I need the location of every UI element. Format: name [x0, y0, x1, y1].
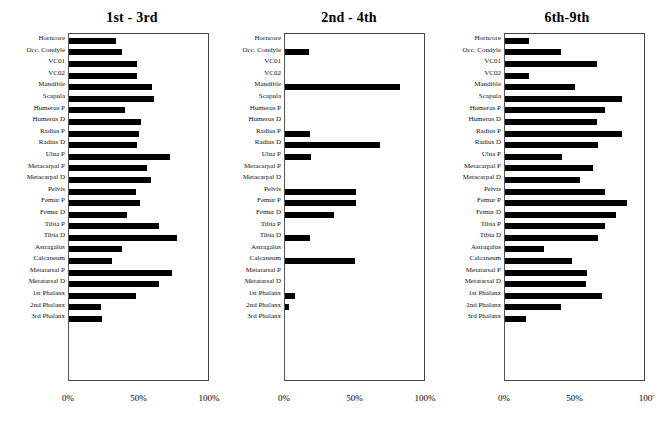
bar-row: [69, 221, 208, 233]
bar-row: [505, 93, 644, 105]
bar-row: [69, 139, 208, 151]
category-label: Metacarpal P: [0, 161, 65, 173]
category-label: Pelvis: [440, 184, 501, 196]
bar-row: [69, 255, 208, 267]
bar: [505, 131, 622, 137]
bar: [69, 246, 122, 252]
panel-2-axis: 0% 50% 100%: [228, 383, 425, 407]
panel-2-axis-spacer: [228, 383, 284, 407]
category-label: Mandible: [0, 79, 65, 91]
category-label: Humerus D: [0, 114, 65, 126]
bar-row: [285, 151, 424, 163]
bar-row: [505, 313, 644, 325]
bar: [505, 316, 526, 322]
category-label: 2nd Phalanx: [228, 300, 281, 312]
panel-2-plot-area: [284, 33, 425, 381]
bar: [505, 49, 561, 55]
category-label: Femur P: [228, 195, 281, 207]
category-label: Metatarsal D: [0, 276, 65, 288]
bar-row: [505, 197, 644, 209]
category-label: Ulna P: [228, 149, 281, 161]
category-label: Radius D: [0, 137, 65, 149]
bar-row: [505, 139, 644, 151]
bar-row: [69, 128, 208, 140]
category-label: 3rd Phalanx: [228, 311, 281, 323]
category-label: VC02: [440, 68, 501, 80]
bar: [505, 142, 598, 148]
bar-row: [505, 151, 644, 163]
bar-row: [69, 70, 208, 82]
category-label: Radius D: [228, 137, 281, 149]
bar: [69, 96, 154, 102]
bar: [505, 258, 572, 264]
category-label: Astragalus: [228, 242, 281, 254]
category-label: Occ. Condyle: [228, 45, 281, 57]
chart-panel-2: 2nd - 4th HorncoreOcc. CondyleVC01VC02Ma…: [228, 0, 440, 436]
category-label: Tibia P: [228, 219, 281, 231]
category-label: Femur P: [440, 195, 501, 207]
panel-3-axis-spacer: [440, 383, 504, 407]
panel-3-plot-area: [504, 33, 645, 381]
bar-row: [69, 151, 208, 163]
category-label: Metatarsal D: [228, 276, 281, 288]
bar: [69, 131, 139, 137]
bar-row: [505, 221, 644, 233]
panel-3-tick-100: 100': [639, 393, 654, 403]
category-label: Calcaneum: [0, 253, 65, 265]
category-label: Femur D: [228, 207, 281, 219]
bar-row: [69, 186, 208, 198]
bar: [69, 270, 172, 276]
bar-row: [69, 47, 208, 59]
bar: [505, 73, 529, 79]
bar: [285, 258, 355, 264]
bar: [505, 212, 616, 218]
bar: [69, 281, 159, 287]
category-label: Metatarsal P: [0, 265, 65, 277]
bar-row: [505, 209, 644, 221]
category-label: Mandible: [440, 79, 501, 91]
category-label: Metatarsal P: [440, 265, 501, 277]
bar-row: [505, 128, 644, 140]
bar: [69, 119, 141, 125]
category-label: Pelvis: [228, 184, 281, 196]
bar-row: [505, 116, 644, 128]
panel-2-title: 2nd - 4th: [228, 10, 440, 26]
category-label: Humerus D: [228, 114, 281, 126]
category-label: Scapula: [0, 91, 65, 103]
bar-row: [285, 313, 424, 325]
category-label: Mandible: [228, 79, 281, 91]
bar: [285, 154, 311, 160]
bar: [69, 107, 125, 113]
bar-row: [505, 81, 644, 93]
category-label: Femur D: [0, 207, 65, 219]
category-label: Astragalus: [440, 242, 501, 254]
bar: [285, 49, 309, 55]
bar-row: [285, 128, 424, 140]
bar: [69, 189, 136, 195]
bar: [505, 223, 605, 229]
bar: [505, 38, 529, 44]
bar: [505, 304, 561, 310]
bar-row: [285, 244, 424, 256]
panel-1-axis: 0% 50% 100%: [0, 383, 209, 407]
bar: [285, 84, 400, 90]
category-label: VC02: [228, 68, 281, 80]
category-label: Horncore: [0, 33, 65, 45]
panel-1-body: HorncoreOcc. CondyleVC01VC02MandibleScap…: [0, 33, 209, 381]
bar-row: [505, 267, 644, 279]
category-label: 2nd Phalanx: [440, 300, 501, 312]
bar: [69, 223, 159, 229]
bar: [285, 304, 289, 310]
category-label: Occ. Condyle: [440, 45, 501, 57]
bar: [69, 316, 102, 322]
bar-row: [505, 105, 644, 117]
bar-row: [69, 302, 208, 314]
bar-row: [69, 232, 208, 244]
bar-row: [285, 139, 424, 151]
bar: [505, 270, 587, 276]
panel-2-body: HorncoreOcc. CondyleVC01VC02MandibleScap…: [228, 33, 425, 381]
panel-2-tick-0: 0%: [278, 393, 290, 403]
bar-row: [285, 58, 424, 70]
category-label: Metatarsal D: [440, 276, 501, 288]
bar: [69, 293, 136, 299]
